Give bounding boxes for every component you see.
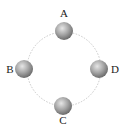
circular-motion-diagram: A B C D xyxy=(0,0,131,134)
label-B: B xyxy=(6,63,13,75)
label-A: A xyxy=(60,7,68,19)
ball-A xyxy=(55,22,73,40)
ball-B xyxy=(15,60,33,78)
circular-path xyxy=(27,32,101,106)
label-C: C xyxy=(59,114,66,126)
ball-D xyxy=(90,60,108,78)
label-D: D xyxy=(111,63,119,75)
ball-C xyxy=(54,97,72,115)
